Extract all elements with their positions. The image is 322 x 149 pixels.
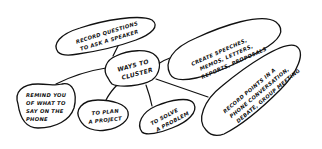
label-remind-phone-3: SAY ON THE: [26, 108, 64, 114]
node-solve-problem: TO SOLVE A PROBLEM: [140, 100, 195, 134]
edge-center-plan-project: [106, 84, 118, 100]
label-remind-phone-2: OF WHAT TO: [26, 100, 66, 106]
edge-center-record-points: [156, 79, 208, 97]
node-record-questions: RECORD QUESTIONS TO ASK A SPEAKER: [56, 18, 155, 55]
node-remind-phone: REMIND YOU OF WHAT TO SAY ON THE PHONE: [17, 84, 75, 128]
edge-center-remind-phone: [56, 68, 106, 84]
bubble-record-questions: [56, 18, 155, 55]
label-remind-phone-1: REMIND YOU: [26, 92, 67, 98]
node-plan-project: TO PLAN A PROJECT: [78, 100, 128, 131]
cluster-diagram: RECORD QUESTIONS TO ASK A SPEAKER WAYS T…: [0, 0, 322, 149]
edge-center-solve-problem: [146, 85, 152, 106]
label-remind-phone-4: PHONE: [26, 116, 48, 122]
